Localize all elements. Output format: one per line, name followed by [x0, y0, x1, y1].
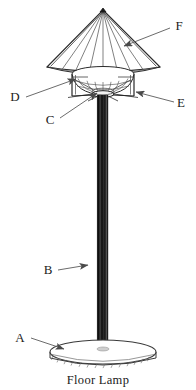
- label-b: B: [44, 262, 53, 277]
- leader-line-c: [60, 93, 97, 118]
- pole-shaft: [97, 95, 108, 348]
- lamp-shade-outline: [47, 10, 160, 72]
- lamp-shade: [47, 8, 160, 75]
- shade-finial: [100, 8, 106, 12]
- label-a: A: [15, 330, 25, 345]
- leader-line-e: [136, 92, 174, 102]
- floor-lamp-figure: A B C D E F Floor Lamp: [0, 0, 196, 390]
- label-e: E: [177, 95, 185, 110]
- diffuser-bowl: [72, 67, 134, 98]
- label-d: D: [10, 89, 19, 104]
- figure-caption: Floor Lamp: [67, 373, 129, 387]
- label-f: F: [175, 18, 182, 33]
- base-disc: [50, 340, 156, 368]
- pole-base-collar: [97, 347, 109, 351]
- label-c: C: [46, 112, 55, 127]
- leader-line-a: [31, 338, 64, 349]
- leader-line-f: [124, 28, 170, 46]
- leader-line-d: [26, 79, 76, 97]
- leader-line-b: [58, 265, 88, 270]
- floor-lamp-drawing: A B C D E F Floor Lamp: [0, 0, 196, 390]
- pole: [97, 95, 108, 348]
